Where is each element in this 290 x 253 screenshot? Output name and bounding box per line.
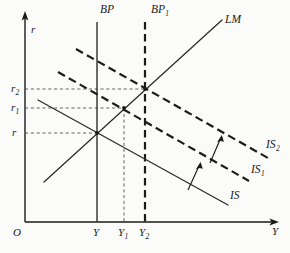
x-tick-label-Y2: Y2 (139, 227, 149, 238)
shift-arrow-is-to-is1 (188, 162, 203, 190)
curve-label-is1: IS1 (251, 164, 264, 176)
y-axis-label: r (31, 24, 35, 35)
equilibrium-point-1 (122, 106, 126, 110)
y-tick-label-r1: r1 (11, 102, 19, 113)
shift-arrow-is1-to-is2 (210, 135, 224, 163)
guide-lines-group (25, 89, 145, 222)
x-axis-label: Y (272, 226, 278, 237)
origin-label: O (13, 227, 21, 238)
curve-label-is2: IS2 (266, 139, 279, 151)
equilibrium-point-0 (95, 131, 99, 135)
curve-lm-line (44, 20, 222, 182)
y-tick-label-r2: r2 (11, 83, 19, 94)
shift-arrow-head-icon (196, 162, 203, 169)
shift-arrow-shaft (210, 139, 220, 163)
curve-label-bp1: BP1 (151, 4, 169, 16)
x-tick-label-Y: Y (93, 227, 99, 238)
y-tick-label-r: r (12, 127, 16, 138)
diagram-canvas (0, 0, 290, 253)
x-tick-label-Y1: Y1 (118, 227, 128, 238)
equilibrium-point-2 (143, 87, 147, 91)
curve-label-lm: LM (225, 14, 241, 26)
curve-label-is: IS (230, 190, 240, 202)
axes-group (22, 11, 279, 225)
curve-label-bp: BP (100, 4, 114, 16)
isl-m-bp-figure: r Y O r2 r1 r Y Y1 Y2 BP BP1 LM IS IS1 I… (0, 0, 290, 253)
shift-arrow-head-icon (217, 135, 224, 142)
